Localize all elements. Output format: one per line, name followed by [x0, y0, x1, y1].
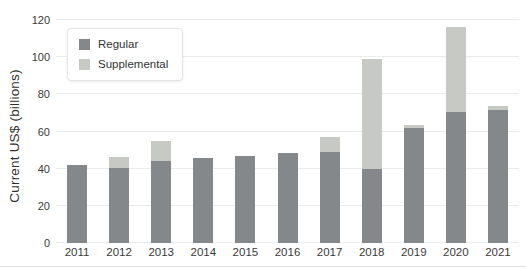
- bar-2011-regular: [67, 165, 87, 243]
- bar-2016-regular: [278, 153, 298, 243]
- bar-2012-supplemental: [109, 157, 129, 168]
- y-tick-label-120: 120: [0, 13, 50, 27]
- x-tick-label-2020: 2020: [443, 246, 469, 258]
- bar-2020-supplemental: [446, 27, 466, 112]
- stacked-bar-chart: Current US$ (billions) 020406080100120 2…: [0, 0, 526, 269]
- x-tick-label-2017: 2017: [317, 246, 343, 258]
- bar-2020-regular: [446, 112, 466, 243]
- y-axis-tick-labels: 020406080100120: [0, 20, 50, 243]
- y-tick-label-100: 100: [0, 50, 50, 64]
- legend-label-supplemental: Supplemental: [98, 58, 168, 71]
- bar-2013-supplemental: [151, 141, 171, 161]
- x-tick-label-2011: 2011: [65, 246, 90, 258]
- x-tick-label-2019: 2019: [401, 246, 427, 258]
- legend-label-regular: Regular: [98, 38, 138, 51]
- x-tick-label-2012: 2012: [106, 246, 132, 258]
- legend: Regular Supplemental: [67, 28, 183, 81]
- gridline-120: [56, 19, 519, 20]
- x-tick-label-2015: 2015: [233, 246, 259, 258]
- bar-2021-supplemental: [488, 106, 508, 110]
- y-tick-label-40: 40: [0, 162, 50, 176]
- bottom-rule: [0, 266, 526, 267]
- bar-2013-regular: [151, 161, 171, 243]
- x-tick-label-2013: 2013: [148, 246, 174, 258]
- y-tick-label-20: 20: [0, 199, 50, 213]
- bar-2012-regular: [109, 168, 129, 243]
- bar-2019-supplemental: [404, 125, 424, 128]
- regular-swatch-icon: [79, 39, 90, 50]
- y-tick-label-80: 80: [0, 87, 50, 101]
- x-axis-tick-labels: 2011201220132014201520162017201820192020…: [0, 246, 526, 264]
- bar-2018-regular: [362, 169, 382, 243]
- bar-2017-supplemental: [320, 137, 340, 152]
- supplemental-swatch-icon: [79, 59, 90, 70]
- bar-2015-regular: [235, 156, 255, 243]
- x-tick-label-2018: 2018: [359, 246, 385, 258]
- x-tick-label-2014: 2014: [191, 246, 217, 258]
- legend-item-supplemental: Supplemental: [79, 58, 168, 71]
- bar-2017-regular: [320, 152, 340, 243]
- x-tick-label-2021: 2021: [485, 246, 511, 258]
- bar-2021-regular: [488, 110, 508, 243]
- legend-item-regular: Regular: [79, 38, 168, 51]
- bar-2019-regular: [404, 128, 424, 243]
- bar-2018-supplemental: [362, 59, 382, 169]
- bar-2014-regular: [193, 158, 213, 243]
- y-tick-label-60: 60: [0, 125, 50, 139]
- x-tick-label-2016: 2016: [275, 246, 301, 258]
